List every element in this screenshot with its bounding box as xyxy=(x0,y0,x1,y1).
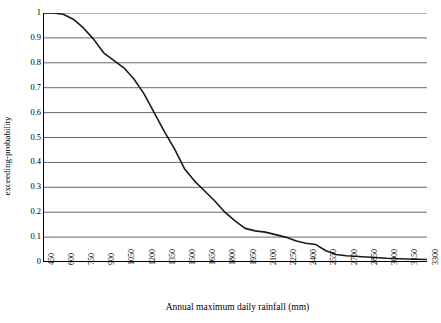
y-axis-tick-labels: 00.10.20.30.40.50.60.70.80.91 xyxy=(8,0,41,262)
x-tick-label: 3300 xyxy=(431,249,440,265)
chart-svg xyxy=(43,13,427,262)
y-tick-label: 0.8 xyxy=(11,58,41,67)
x-tick-label: 2550 xyxy=(329,249,338,265)
y-tick-label: 0.9 xyxy=(11,33,41,42)
y-tick-label: 1 xyxy=(11,8,41,17)
y-tick-label: 0 xyxy=(11,257,41,266)
y-tick-label: 0.7 xyxy=(11,83,41,92)
x-tick-label: 2250 xyxy=(289,249,298,265)
chart-container: exceeding-probability 00.10.20.30.40.50.… xyxy=(0,0,441,323)
gridlines xyxy=(43,13,427,262)
series-line xyxy=(43,13,427,260)
x-tick-label: 1350 xyxy=(168,249,177,265)
x-tick-label: 2400 xyxy=(309,249,318,265)
plot-area xyxy=(43,13,427,262)
y-tick-label: 0.6 xyxy=(11,108,41,117)
x-tick-label: 750 xyxy=(87,253,96,265)
x-tick-label: 1500 xyxy=(188,249,197,265)
x-tick-label: 450 xyxy=(47,253,56,265)
x-tick-label: 1800 xyxy=(228,249,237,265)
x-tick-label: 1200 xyxy=(148,249,157,265)
y-tick-label: 0.5 xyxy=(11,133,41,142)
x-tick-label: 3000 xyxy=(390,249,399,265)
x-tick-label: 2700 xyxy=(350,249,359,265)
x-tick-label: 1650 xyxy=(208,249,217,265)
y-tick-label: 0.3 xyxy=(11,182,41,191)
x-tick-label: 2100 xyxy=(269,249,278,265)
x-tick-label: 1950 xyxy=(249,249,258,265)
x-tick-label: 2850 xyxy=(370,249,379,265)
data-series xyxy=(43,13,427,260)
x-axis-title: Annual maximum daily rainfall (mm) xyxy=(40,302,435,312)
x-tick-label: 900 xyxy=(107,253,116,265)
x-tick-label: 3150 xyxy=(410,249,419,265)
x-tick-label: 1050 xyxy=(127,249,136,265)
x-axis-tick-labels: 4506007509001050120013501500165018001950… xyxy=(43,263,433,303)
x-tick-label: 600 xyxy=(67,253,76,265)
y-tick-label: 0.2 xyxy=(11,207,41,216)
y-tick-label: 0.4 xyxy=(11,157,41,166)
y-tick-label: 0.1 xyxy=(11,232,41,241)
